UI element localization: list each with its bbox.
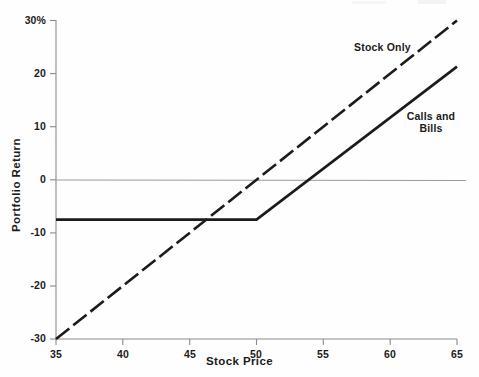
y-tick-label: -30 bbox=[8, 332, 46, 344]
y-tick-label: 20 bbox=[8, 67, 46, 79]
series-annotation-stock-only: Stock Only bbox=[354, 41, 411, 53]
y-axis-title: Portfolio Return bbox=[10, 138, 22, 232]
y-axis-ticks bbox=[50, 21, 56, 340]
series-annotation-calls-and-bills: Calls andBills bbox=[392, 110, 470, 134]
y-tick-label: -20 bbox=[8, 279, 46, 291]
x-axis-title: Stock Price bbox=[0, 355, 479, 367]
calls-annotation-line-1: Calls and bbox=[407, 110, 455, 122]
chart-plot-area bbox=[0, 0, 479, 377]
y-tick-label: 10 bbox=[8, 120, 46, 132]
y-tick-label: 30% bbox=[8, 14, 46, 26]
x-axis-ticks bbox=[56, 339, 457, 345]
chart-figure: 30% 20 10 0 -10 -20 -30 35 40 45 50 55 6… bbox=[0, 0, 479, 377]
series-line-calls-and-bills bbox=[56, 67, 457, 220]
calls-annotation-line-2: Bills bbox=[419, 122, 442, 134]
zero-reference-line bbox=[56, 180, 466, 181]
